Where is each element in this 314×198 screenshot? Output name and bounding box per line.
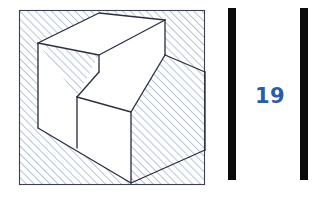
rule-bar-left [228,8,236,180]
page-root: 19 [0,0,314,198]
rule-bar-right [300,8,308,180]
page-number: 19 [240,82,300,110]
sidebar-panel: 19 [218,0,314,198]
isometric-drawing [0,0,218,198]
figure-panel [0,0,218,198]
